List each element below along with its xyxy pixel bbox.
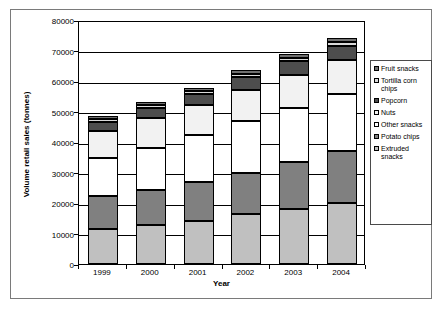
x-tick-label: 2000 (141, 268, 159, 277)
y-axis-tick-labels: 0100002000030000400005000060000700008000… (26, 21, 74, 265)
bar-segment[interactable] (231, 77, 261, 90)
x-tick-mark (269, 265, 270, 269)
bar-segment[interactable] (279, 209, 309, 264)
stacked-bar[interactable] (231, 20, 261, 264)
y-tick-label: 40000 (30, 139, 74, 148)
plot-area (78, 21, 365, 265)
legend-label: Nuts (381, 109, 395, 117)
bar-segment[interactable] (231, 121, 261, 172)
legend-item[interactable]: Popcorn (374, 97, 429, 105)
y-tick-label: 70000 (30, 47, 74, 56)
bar-segment[interactable] (184, 88, 214, 91)
bar-segment[interactable] (279, 75, 309, 109)
bar-segment[interactable] (88, 116, 118, 118)
bar-segment[interactable] (184, 135, 214, 181)
gridline (79, 83, 364, 84)
y-tick-label: 10000 (30, 230, 74, 239)
bar-segment[interactable] (231, 70, 261, 74)
legend-label: Fruit snacks (381, 65, 419, 73)
bar-segment[interactable] (279, 61, 309, 74)
chart-legend: Fruit snacksTortilla corn chipsPopcornNu… (370, 60, 432, 225)
legend-swatch-icon (374, 110, 379, 115)
gridline (79, 113, 364, 114)
bar-segment[interactable] (136, 225, 166, 264)
legend-swatch-icon (374, 134, 379, 139)
y-tick-label: 20000 (30, 200, 74, 209)
x-tick-mark (78, 265, 79, 269)
legend-swatch-icon (374, 146, 379, 151)
bar-segment[interactable] (231, 74, 261, 78)
bar-segment[interactable] (279, 54, 309, 57)
legend-label: Other snacks (381, 121, 422, 129)
x-tick-mark (222, 265, 223, 269)
gridline (79, 174, 364, 175)
bar-segment[interactable] (88, 131, 118, 158)
gridline (79, 205, 364, 206)
bar-segment[interactable] (327, 38, 357, 42)
y-tick-mark (74, 51, 78, 52)
y-tick-label: 80000 (30, 17, 74, 26)
y-tick-mark (74, 21, 78, 22)
bar-segment[interactable] (136, 108, 166, 118)
bar-segment[interactable] (184, 105, 214, 135)
bar-segment[interactable] (327, 46, 357, 60)
bar-segment[interactable] (184, 94, 214, 105)
legend-item[interactable]: Tortilla corn chips (374, 77, 429, 93)
legend-swatch-icon (374, 78, 379, 83)
bar-segment[interactable] (184, 91, 214, 94)
y-tick-mark (74, 112, 78, 113)
bar-segment[interactable] (136, 148, 166, 190)
bar-segment[interactable] (136, 105, 166, 108)
legend-label: Popcorn (381, 97, 407, 105)
legend-label: Potato chips (381, 133, 420, 141)
legend-item[interactable]: Fruit snacks (374, 65, 429, 73)
legend-swatch-icon (374, 66, 379, 71)
y-tick-mark (74, 143, 78, 144)
bar-segment[interactable] (327, 42, 357, 46)
y-tick-mark (74, 204, 78, 205)
gridline (79, 144, 364, 145)
bar-segment[interactable] (184, 182, 214, 221)
bar-segment[interactable] (279, 58, 309, 62)
y-tick-label: 30000 (30, 169, 74, 178)
bar-segment[interactable] (136, 118, 166, 147)
x-tick-label: 2003 (284, 268, 302, 277)
stacked-bar[interactable] (327, 20, 357, 264)
legend-label: Extruded snacks (381, 145, 429, 161)
stacked-bar[interactable] (184, 20, 214, 264)
legend-swatch-icon (374, 122, 379, 127)
bar-segment[interactable] (136, 102, 166, 105)
bar-segment[interactable] (327, 60, 357, 94)
bar-segment[interactable] (327, 151, 357, 203)
bar-segment[interactable] (136, 190, 166, 225)
bar-segment[interactable] (279, 162, 309, 209)
y-tick-mark (74, 82, 78, 83)
legend-item[interactable]: Extruded snacks (374, 145, 429, 161)
bar-segment[interactable] (88, 122, 118, 131)
bar-segment[interactable] (327, 94, 357, 151)
bar-segment[interactable] (88, 196, 118, 229)
bar-segment[interactable] (231, 90, 261, 121)
stacked-bar[interactable] (279, 20, 309, 264)
bar-segment[interactable] (184, 221, 214, 264)
bar-segment[interactable] (231, 214, 261, 264)
x-axis-title: Year (78, 279, 365, 288)
legend-item[interactable]: Other snacks (374, 121, 429, 129)
stacked-bar[interactable] (88, 20, 118, 264)
bar-segment[interactable] (231, 173, 261, 215)
gridline (79, 235, 364, 236)
bar-segment[interactable] (88, 229, 118, 264)
bar-segment[interactable] (88, 158, 118, 196)
legend-item[interactable]: Nuts (374, 109, 429, 117)
legend-label: Tortilla corn chips (381, 77, 429, 93)
x-tick-label: 2004 (332, 268, 350, 277)
legend-swatch-icon (374, 98, 379, 103)
x-tick-mark (365, 265, 366, 269)
bar-segment[interactable] (279, 108, 309, 162)
y-tick-mark (74, 173, 78, 174)
bar-segment[interactable] (88, 119, 118, 123)
bar-segment[interactable] (327, 203, 357, 264)
x-tick-label: 2001 (189, 268, 207, 277)
stacked-bar[interactable] (136, 20, 166, 264)
legend-item[interactable]: Potato chips (374, 133, 429, 141)
